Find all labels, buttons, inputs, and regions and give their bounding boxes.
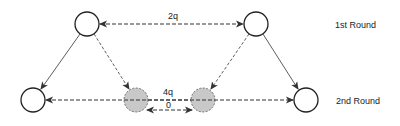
diagram-graphics <box>0 0 400 126</box>
node-bottom-left <box>21 88 45 112</box>
edge-tr-br <box>263 34 298 89</box>
edge-tr-g2 <box>211 34 249 89</box>
label-4q: 4q <box>163 88 173 97</box>
label-2q: 2q <box>168 12 178 21</box>
label-0: 0 <box>166 101 171 110</box>
edge-tl-bl <box>41 34 80 89</box>
node-bottom-right <box>294 88 318 112</box>
diagram-canvas: 2q 4q 0 1st Round 2nd Round <box>0 0 400 126</box>
node-top-right <box>244 12 268 36</box>
label-1st-round: 1st Round <box>335 21 376 30</box>
node-top-left <box>75 12 99 36</box>
edge-tl-g1 <box>94 34 129 89</box>
label-2nd-round: 2nd Round <box>336 97 380 106</box>
